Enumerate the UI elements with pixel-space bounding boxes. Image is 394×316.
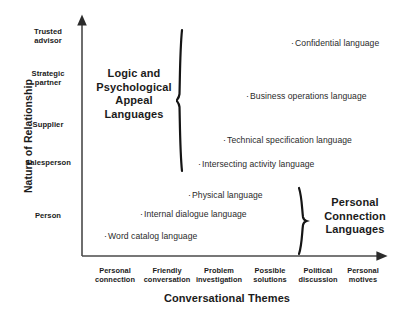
data-point-word-catalog-language: ·Word catalog language [104, 231, 197, 241]
x-tick-friendly-conversation: Friendly conversation [138, 266, 196, 284]
y-tick-line1: Strategic [20, 69, 76, 78]
y-tick-person: Person [20, 211, 76, 220]
data-point-intersecting-activity-language: ·Intersecting activity language [198, 159, 314, 169]
data-point-label: Word catalog language [108, 231, 197, 241]
x-tick-line2: investigation [190, 275, 248, 284]
chart-figure: Nature of Relationship Conversational Th… [0, 0, 394, 316]
data-point-label: Physical language [192, 190, 263, 200]
y-tick-line1: Trusted [20, 27, 76, 36]
data-point-label: Internal dialogue language [144, 209, 247, 219]
group-label-personal-text: Personal Connection Languages [324, 196, 386, 235]
data-point-technical-specification-language: ·Technical specification language [223, 135, 352, 145]
data-point-confidential-language: ·Confidential language [291, 38, 379, 48]
y-tick-salesperson: Salesperson [20, 158, 76, 167]
x-tick-line2: motives [334, 275, 392, 284]
y-tick-line2: partner [20, 78, 76, 87]
data-point-label: Intersecting activity language [202, 159, 314, 169]
x-axis-title-text: Conversational Themes [164, 292, 290, 304]
y-tick-line2: advisor [20, 36, 76, 45]
y-axis-title-text: Nature of Relationship [22, 79, 34, 193]
x-tick-line1: Personal [334, 266, 392, 275]
x-tick-line2: connection [86, 275, 144, 284]
data-point-label: Technical specification language [227, 135, 352, 145]
y-tick-supplier: Supplier [20, 120, 76, 129]
x-tick-line1: Personal [86, 266, 144, 275]
data-point-internal-dialogue-language: ·Internal dialogue language [140, 209, 247, 219]
x-axis-title: Conversational Themes [82, 292, 372, 304]
x-tick-line2: conversation [138, 275, 196, 284]
x-tick-problem-investigation: Problem investigation [190, 266, 248, 284]
group-label-personal-connection-languages: Personal Connection Languages [316, 196, 394, 237]
y-tick-strategic-partner: Strategic partner [20, 69, 76, 87]
data-point-business-operations-language: ·Business operations language [246, 91, 367, 101]
x-tick-personal-connection: Personal connection [86, 266, 144, 284]
plot-area: Nature of Relationship Conversational Th… [0, 0, 394, 316]
y-tick-line1: Supplier [20, 120, 76, 129]
brace-personal-group-icon [296, 186, 316, 256]
y-tick-trusted-advisor: Trusted advisor [20, 27, 76, 45]
y-tick-line1: Salesperson [20, 158, 76, 167]
group-label-logic-languages: Logic and Psychological Appeal Languages [88, 67, 180, 121]
x-tick-line1: Problem [190, 266, 248, 275]
y-tick-line1: Person [20, 211, 76, 220]
data-point-physical-language: ·Physical language [188, 190, 263, 200]
data-point-label: Business operations language [250, 91, 367, 101]
data-point-label: Confidential language [295, 38, 379, 48]
group-label-logic-text: Logic and Psychological Appeal Languages [96, 67, 171, 120]
x-tick-personal-motives: Personal motives [334, 266, 392, 284]
x-tick-line1: Friendly [138, 266, 196, 275]
